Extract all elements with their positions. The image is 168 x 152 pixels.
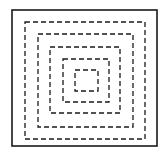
dashed-square-4 xyxy=(63,59,109,102)
dashed-squares-group xyxy=(25,22,145,139)
dashed-square-1 xyxy=(25,22,145,139)
concentric-squares-diagram xyxy=(0,0,168,152)
dashed-square-5 xyxy=(75,70,98,91)
outer-frame xyxy=(12,10,157,146)
